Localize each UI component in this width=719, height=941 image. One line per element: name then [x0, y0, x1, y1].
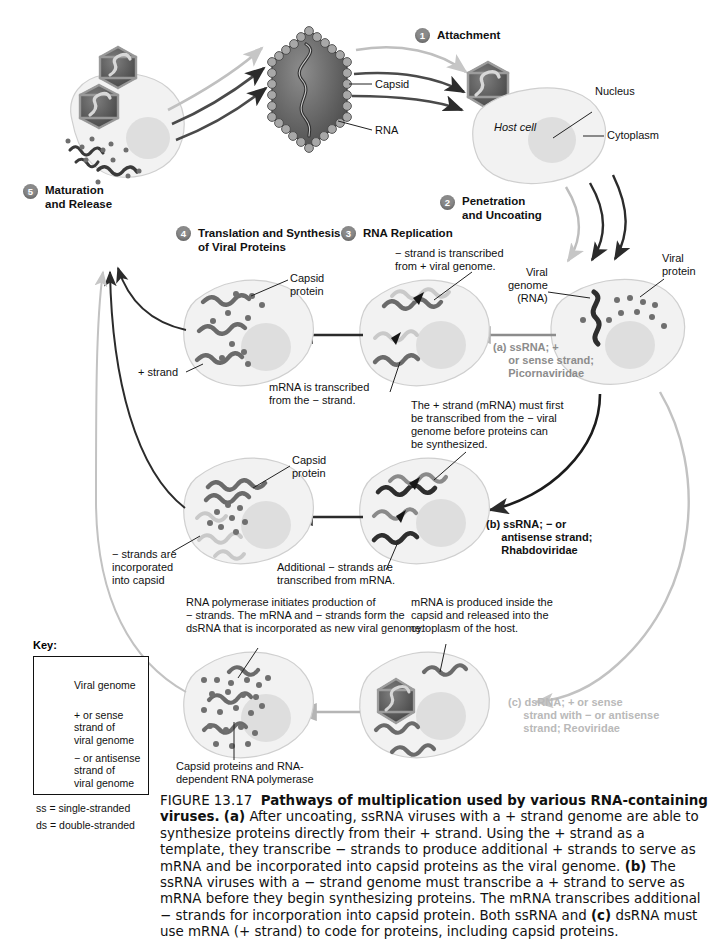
- released-virion-2: [80, 85, 118, 128]
- step-label-rna-replication: RNA Replication: [363, 227, 453, 241]
- annotation-minus-transcribed: − strand is transcribed from + viral gen…: [395, 247, 504, 273]
- assembly-cell-c: [184, 648, 314, 760]
- annotation-mrna-transcribed: mRNA is transcribed from the − strand.: [269, 381, 369, 407]
- host-cell: [473, 88, 606, 183]
- figure-number: FIGURE 13.17: [160, 793, 252, 808]
- step-label-translation: Translation and Synthesis of Viral Prote…: [198, 227, 341, 254]
- annotation-rna-polymerase: RNA polymerase initiates production of −…: [186, 596, 424, 635]
- arrow-c-to-maturation: [96, 272, 186, 692]
- step-label-penetration: Penetration and Uncoating: [462, 195, 542, 222]
- caption-a-label: (a): [224, 809, 245, 824]
- key-title: Key:: [33, 639, 57, 651]
- maturation-cell: [66, 73, 185, 184]
- capsid-label: Capsid: [375, 78, 409, 91]
- annotation-plus-must-first: The + strand (mRNA) must first be transc…: [411, 399, 564, 451]
- host-cell-label: Host cell: [494, 121, 536, 134]
- rna-label: RNA: [375, 124, 398, 137]
- annotation-capsid-protein-a: Capsid protein: [290, 272, 324, 298]
- replication-cell-b: [360, 452, 490, 570]
- annotation-capsid-protein-b: Capsid protein: [292, 454, 326, 480]
- pathway-b-label: (b) ssRNA; − or antisense strand; Rhabdo…: [486, 518, 592, 557]
- annotation-capsid-proteins-polymerase: Capsid proteins and RNA- dependent RNA p…: [176, 760, 314, 786]
- key-item-viral-genome: Viral genome: [74, 679, 136, 691]
- annotation-minus-incorporated: − strands are incorporated into capsid: [112, 548, 177, 587]
- step-label-maturation: Maturation and Release: [45, 184, 112, 211]
- annotation-additional-minus: Additional − strands are transcribed fro…: [277, 561, 395, 587]
- step-label-attachment: Attachment: [437, 29, 500, 43]
- key-item-plus-strand: + or sense strand of viral genome: [74, 709, 134, 746]
- viral-genome-label: Viral genome (RNA): [508, 266, 548, 305]
- step-badge-3: 3: [341, 226, 356, 241]
- caption-c-label: (c): [591, 908, 611, 923]
- step-badge-1: 1: [415, 28, 430, 43]
- penetration-arrows: [566, 175, 626, 261]
- step-badge-2: 2: [440, 195, 455, 210]
- arrow-a-to-maturation: [118, 268, 186, 330]
- virion-particle: [268, 27, 372, 153]
- key-footnote-ds: ds = double-stranded: [36, 819, 135, 831]
- pathway-c-label: (c) dsRNA; + or sense strand with − or a…: [508, 696, 659, 735]
- replication-cell-a: [360, 272, 490, 392]
- pathway-a-label: (a) ssRNA; + or sense strand; Picornavir…: [493, 341, 594, 380]
- step-badge-4: 4: [176, 226, 191, 241]
- arrow-b-to-maturation: [110, 272, 185, 508]
- annotation-plus-strand: + strand: [138, 366, 178, 379]
- figure-caption: FIGURE 13.17 Pathways of multiplication …: [160, 793, 712, 941]
- nucleus-label: Nucleus: [595, 85, 635, 98]
- key-footnote-ss: ss = single-stranded: [36, 802, 130, 814]
- viral-protein-label: Viral protein: [662, 252, 696, 278]
- key-item-minus-strand: − or antisense strand of viral genome: [74, 752, 140, 789]
- caption-b-label: (b): [625, 859, 647, 874]
- dsrna-cell-c: [360, 644, 490, 758]
- cytoplasm-label: Cytoplasm: [607, 129, 659, 142]
- step-badge-5: 5: [23, 184, 38, 199]
- released-virion-1: [100, 47, 136, 88]
- annotation-mrna-inside-capsid: mRNA is produced inside the capsid and r…: [411, 596, 553, 635]
